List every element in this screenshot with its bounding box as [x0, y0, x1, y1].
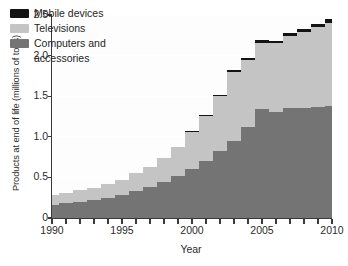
x-tick-label: 1995 [102, 224, 142, 236]
x-tick-label: 2000 [172, 224, 212, 236]
legend-swatch [10, 39, 29, 48]
legend-label-continued: accessories [34, 52, 106, 64]
legend-item[interactable]: Televisions [10, 22, 106, 36]
x-axis-title: Year [50, 243, 332, 255]
legend-label: Computers and [34, 37, 106, 49]
legend-label: Mobile devices [34, 7, 103, 19]
x-tick-label: 2005 [242, 224, 282, 236]
legend-item[interactable]: Mobile devices [10, 7, 106, 21]
legend-item[interactable]: Computers andaccessories [10, 37, 106, 64]
x-tick-label: 1990 [32, 224, 72, 236]
legend-swatch [10, 24, 29, 33]
chart-legend: Mobile devicesTelevisionsComputers andac… [10, 7, 106, 64]
legend-swatch [10, 9, 29, 18]
legend-label: Televisions [34, 22, 85, 34]
x-tick-label: 2010 [312, 224, 348, 236]
